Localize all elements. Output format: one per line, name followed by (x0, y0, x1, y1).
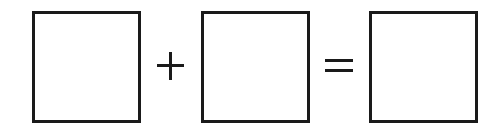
operand-box-2-value (204, 14, 205, 15)
equals-icon-bottom-line (325, 69, 353, 72)
operand-box-2[interactable] (201, 11, 310, 123)
equals-symbol: = (0, 0, 1, 1)
operand-box-1[interactable] (32, 11, 141, 123)
operand-box-1-value (35, 14, 36, 15)
plus-icon-vertical (169, 52, 172, 80)
result-box-value (372, 14, 373, 15)
equals-icon-top-line (325, 59, 353, 62)
plus-symbol: + (0, 0, 1, 1)
result-box[interactable] (369, 11, 478, 123)
